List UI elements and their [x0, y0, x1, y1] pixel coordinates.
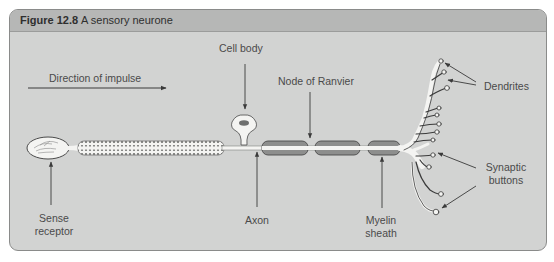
- dendrite-arrow-1: [445, 63, 476, 82]
- synaptic-arrow-2: [442, 186, 476, 208]
- label-synaptic-buttons: Synaptic buttons: [482, 161, 530, 187]
- label-myelin-line2: sheath: [361, 227, 401, 240]
- dotted-axon-section: [78, 141, 224, 155]
- myelin-sheaths: [262, 141, 400, 155]
- label-sense-receptor: Sense receptor: [34, 212, 74, 238]
- label-myelin-line1: Myelin: [361, 214, 401, 227]
- dendrite-arrow-2: [448, 80, 476, 85]
- label-dendrites: Dendrites: [484, 80, 529, 93]
- label-node-of-ranvier: Node of Ranvier: [278, 75, 354, 88]
- label-synaptic-line2: buttons: [482, 174, 530, 187]
- label-cell-body: Cell body: [219, 42, 263, 55]
- neurone-diagram: [0, 0, 554, 262]
- sense-receptor-shape: [27, 137, 78, 159]
- label-sense-receptor-line2: receptor: [34, 225, 74, 238]
- synaptic-arrow-1: [438, 153, 476, 168]
- cell-body-shape: [232, 115, 257, 145]
- label-sense-receptor-line1: Sense: [34, 212, 74, 225]
- label-direction-of-impulse: Direction of impulse: [49, 72, 141, 85]
- label-axon: Axon: [245, 214, 269, 227]
- label-myelin-sheath: Myelin sheath: [361, 214, 401, 240]
- label-synaptic-line1: Synaptic: [482, 161, 530, 174]
- dendrite-tree: [400, 59, 449, 215]
